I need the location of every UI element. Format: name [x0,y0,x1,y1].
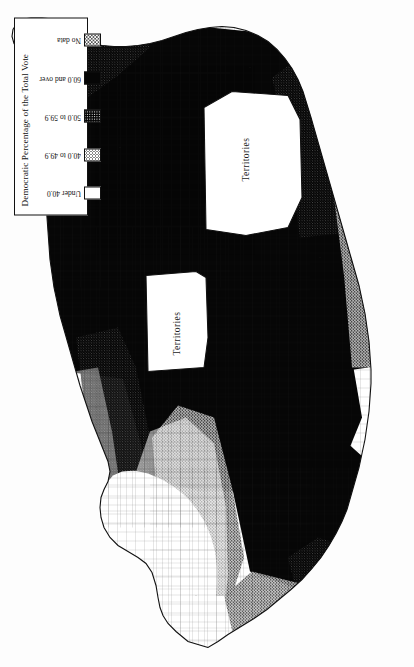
legend-swatch-solid-black [84,71,101,84]
map-label-territories-lower: Territories [241,137,251,181]
map-legend: Democratic Percentage of the Total Vote … [14,17,88,215]
legend-item-60-and-over: 60.0 and over [35,63,101,92]
legend-swatch-medium-dot-screen [84,148,101,161]
legend-swatch-white-blank [84,186,101,199]
legend-label: Under 40.0 [35,189,81,197]
legend-items: Under 40.0 40.0 to 49.9 50.0 to 59.9 60.… [35,25,101,207]
legend-item-no-data: No data [35,25,101,54]
legend-label: No data [35,36,81,44]
legend-label: 60.0 and over [35,74,81,82]
map-label-territories-upper: Territories [172,311,182,355]
legend-label: 40.0 to 49.9 [35,150,81,158]
legend-title: Democratic Percentage of the Total Vote [20,25,30,206]
legend-item-40-to-49: 40.0 to 49.9 [35,140,101,169]
figure-canvas: Territories Territories Democratic Perce… [0,0,414,667]
rotated-map-layer: Territories Territories Democratic Perce… [0,0,414,667]
legend-swatch-dark-dot-screen [84,110,101,123]
legend-label: 50.0 to 59.9 [35,112,81,120]
legend-item-50-to-59: 50.0 to 59.9 [35,101,101,130]
legend-item-under-40: Under 40.0 [35,178,101,207]
legend-swatch-light-dot-screen [84,33,101,46]
